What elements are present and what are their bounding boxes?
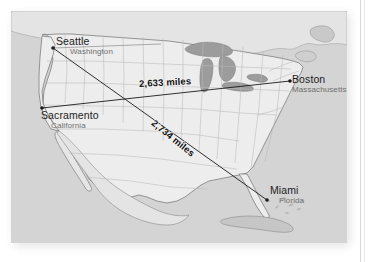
city-state-boston: Massachusetts <box>292 86 347 94</box>
city-label-boston: Boston Massachusetts <box>292 74 347 94</box>
page-edge-rule-secondary <box>364 0 365 262</box>
map-figure: Seattle Washington Sacramento California… <box>0 0 373 262</box>
city-name-miami: Miami <box>270 185 304 196</box>
city-name-sacramento: Sacramento <box>41 110 99 121</box>
city-dot-seattle <box>51 46 55 50</box>
page-edge-rule <box>360 0 361 262</box>
city-dot-miami <box>265 198 269 202</box>
city-name-boston: Boston <box>292 74 347 85</box>
city-state-sacramento: California <box>51 122 99 130</box>
city-state-miami: Florida <box>279 197 304 205</box>
city-label-seattle: Seattle Washington <box>56 36 113 56</box>
city-label-sacramento: Sacramento California <box>41 110 99 130</box>
city-state-seattle: Washington <box>70 48 113 56</box>
city-name-seattle: Seattle <box>56 36 113 47</box>
city-label-miami: Miami Florida <box>270 185 304 205</box>
